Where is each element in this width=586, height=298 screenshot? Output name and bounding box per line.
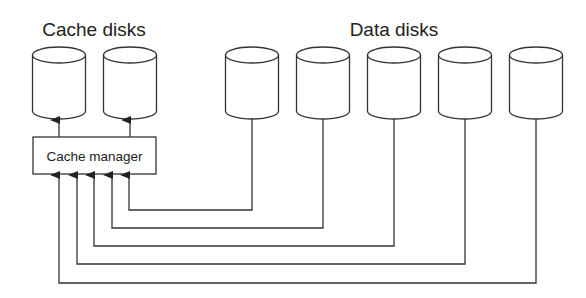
disk-top (104, 47, 157, 63)
data-disks-group (226, 47, 563, 119)
disk-top (226, 47, 279, 63)
manager-to-cache-arrows (59, 120, 130, 137)
cache-disk-icon (104, 47, 157, 119)
disk-top (510, 47, 563, 63)
disk-top (297, 47, 350, 63)
data-disk-icon (297, 47, 350, 119)
disk-body (439, 55, 492, 119)
disk-body (510, 55, 563, 119)
data-disks-heading: Data disks (350, 19, 439, 40)
cache-manager-label: Cache manager (46, 149, 143, 164)
data-disk-icon (368, 47, 421, 119)
disk-top (439, 47, 492, 63)
disk-body (368, 55, 421, 119)
data-disk-icon (510, 47, 563, 119)
cache-disks-group (33, 47, 157, 119)
cache-disks-heading: Cache disks (42, 19, 146, 40)
cache-disk-icon (33, 47, 86, 119)
disk-body (297, 55, 350, 119)
disk-top (368, 47, 421, 63)
disk-body (104, 55, 157, 119)
data-disk-icon (226, 47, 279, 119)
data-disk-icon (439, 47, 492, 119)
cache-architecture-diagram: Cache disks Data disks Cache manager (0, 0, 586, 298)
disk-top (33, 47, 86, 63)
disk-body (33, 55, 86, 119)
cache-manager-box: Cache manager (33, 137, 156, 174)
disk-body (226, 55, 279, 119)
